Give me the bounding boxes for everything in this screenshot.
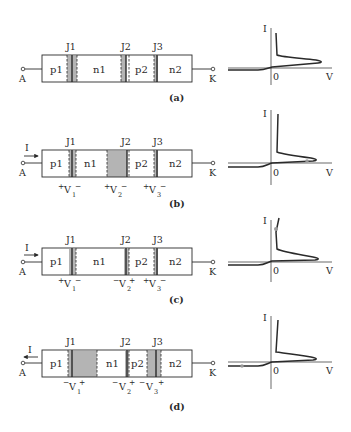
v-axis-label: V <box>325 365 333 376</box>
region-p2: p2 <box>135 64 148 75</box>
junction-label-j2: J2 <box>120 234 131 245</box>
junction-label-j3: J3 <box>152 336 163 347</box>
iv-curve <box>228 33 321 70</box>
origin-label: 0 <box>273 167 279 178</box>
i-axis-label: I <box>263 215 267 226</box>
region-n2: n2 <box>169 64 182 75</box>
region-n1: n1 <box>106 358 119 369</box>
cathode-terminal-icon <box>211 361 215 365</box>
junction-label-j2: J2 <box>120 41 131 52</box>
svg-text:−: − <box>121 182 127 191</box>
voltage-v3: + V 3 − <box>143 182 166 199</box>
origin-label: 0 <box>273 71 279 82</box>
region-n1: n1 <box>93 256 106 267</box>
anode-label: A <box>18 167 26 178</box>
region-n2: n2 <box>169 158 182 169</box>
iv-curve <box>228 114 316 167</box>
junction-label-j1: J1 <box>65 41 76 52</box>
v-axis-label: V <box>325 167 333 178</box>
iv-graph: I V 0 <box>228 23 333 85</box>
current-label: I <box>28 344 32 355</box>
svg-text:V: V <box>148 184 156 195</box>
i-axis-label: I <box>263 23 267 34</box>
svg-text:V: V <box>109 184 117 195</box>
svg-text:V: V <box>68 381 76 392</box>
panel-d: J1 J2 J3 I A K p1 n1 p2 n2 − V 1 + <box>18 312 333 412</box>
junction-label-j3: J3 <box>152 234 163 245</box>
svg-text:V: V <box>63 278 71 289</box>
depletion-j2 <box>121 56 126 82</box>
svg-text:3: 3 <box>157 191 161 199</box>
cathode-label: K <box>209 266 217 277</box>
svg-text:V: V <box>118 278 126 289</box>
region-n2: n2 <box>169 256 182 267</box>
region-p2: p2 <box>135 256 148 267</box>
cathode-terminal-icon <box>211 161 215 165</box>
cathode-terminal-icon <box>211 260 215 264</box>
caption: (a) <box>169 92 184 103</box>
svg-text:−: − <box>139 378 145 387</box>
anode-terminal-icon <box>21 260 25 264</box>
panel-b: J1 J2 J3 I A K p1 n1 p2 n2 + V 1 − <box>18 108 333 209</box>
voltage-v1: + V 1 − <box>58 182 81 199</box>
iv-curve <box>228 320 316 366</box>
i-axis-label: I <box>263 312 267 323</box>
caption: (d) <box>169 401 185 412</box>
svg-text:1: 1 <box>72 285 76 293</box>
svg-text:−: − <box>112 378 118 387</box>
region-p1: p1 <box>50 358 63 369</box>
anode-label: A <box>18 73 26 84</box>
voltage-v1: + V 1 − <box>58 276 81 293</box>
svg-text:3: 3 <box>157 285 161 293</box>
current-label: I <box>25 142 29 153</box>
voltage-v1: − V 1 + <box>63 378 85 396</box>
svg-text:V: V <box>63 184 71 195</box>
cathode-terminal-icon <box>211 67 215 71</box>
svg-text:2: 2 <box>118 191 122 199</box>
v-axis-label: V <box>325 265 333 276</box>
junction-label-j1: J1 <box>65 336 76 347</box>
region-p1: p1 <box>50 158 63 169</box>
voltage-v2: − V 2 + <box>112 378 135 396</box>
svg-text:−: − <box>75 276 81 285</box>
cathode-label: K <box>209 167 217 178</box>
v-axis-label: V <box>325 71 333 82</box>
region-n2: n2 <box>169 358 182 369</box>
region-p1: p1 <box>50 256 63 267</box>
svg-text:−: − <box>160 276 166 285</box>
svg-text:+: + <box>129 378 135 387</box>
region-n1: n1 <box>84 158 97 169</box>
anode-terminal-icon <box>21 161 25 165</box>
region-n1: n1 <box>93 64 106 75</box>
voltage-v3: + V 3 − <box>143 276 166 293</box>
cathode-label: K <box>209 73 217 84</box>
anode-label: A <box>18 367 26 378</box>
svg-text:V: V <box>145 381 153 392</box>
current-label: I <box>25 242 29 253</box>
junction-label-j2: J2 <box>120 136 131 147</box>
thyristor-diagram: J1 J2 J3 A K p1 n1 p2 n2 (a) <box>0 0 351 432</box>
voltage-v2: + V 2 − <box>104 182 127 199</box>
caption: (c) <box>169 294 184 305</box>
junction-label-j3: J3 <box>152 136 163 147</box>
voltage-v2: − V 2 + <box>113 276 135 293</box>
svg-text:3: 3 <box>154 388 158 396</box>
region-p1: p1 <box>50 64 63 75</box>
operating-point <box>305 159 309 163</box>
iv-curve <box>228 218 318 265</box>
voltage-v3: − V 3 + <box>139 378 164 396</box>
junction-label-j1: J1 <box>65 136 76 147</box>
origin-label: 0 <box>273 365 279 376</box>
junction-label-j1: J1 <box>65 234 76 245</box>
svg-text:−: − <box>75 182 81 191</box>
depletion-j2 <box>107 151 127 177</box>
iv-graph: I V 0 <box>228 312 333 389</box>
iv-graph: I V 0 <box>228 108 333 185</box>
svg-text:V: V <box>148 278 156 289</box>
origin-label: 0 <box>273 265 279 276</box>
svg-text:2: 2 <box>127 388 131 396</box>
svg-text:2: 2 <box>127 285 131 293</box>
anode-terminal-icon <box>21 67 25 71</box>
anode-label: A <box>18 266 26 277</box>
region-p2: p2 <box>135 158 148 169</box>
